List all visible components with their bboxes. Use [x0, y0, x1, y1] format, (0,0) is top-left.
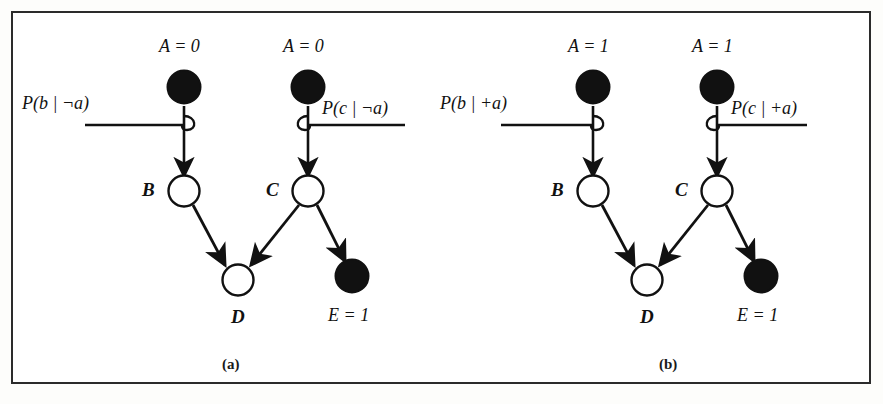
message-pointer-left-b: [501, 116, 603, 130]
node-d[interactable]: [223, 265, 254, 296]
node-d-label: D: [640, 307, 654, 326]
edge-c-to-e: [726, 205, 754, 261]
message-pointer-right-a: [298, 116, 405, 130]
message-pointer-right-b: [707, 116, 807, 130]
panel-a: A = 0 A = 0 P(b | ¬a) P(c | ¬a) B C D E …: [25, 13, 455, 386]
edge-c-to-e: [317, 205, 345, 261]
figure-border: A = 0 A = 0 P(b | ¬a) P(c | ¬a) B C D E …: [11, 11, 871, 384]
message-label-left-a: P(b | ¬a): [22, 94, 89, 112]
node-a-left[interactable]: [577, 71, 610, 104]
node-a-left-label: A = 1: [568, 37, 609, 55]
message-label-left-b: P(b | +a): [440, 94, 507, 112]
node-c-label: C: [266, 180, 279, 199]
node-a-right[interactable]: [701, 71, 734, 104]
node-d-label: D: [231, 307, 245, 326]
edge-b-to-d: [193, 205, 225, 265]
edge-c-to-d: [660, 205, 708, 265]
node-b[interactable]: [578, 176, 609, 207]
node-c-label: C: [675, 180, 688, 199]
diagram-b-graph: [435, 13, 865, 386]
node-e[interactable]: [336, 260, 369, 293]
message-pointer-left-a: [85, 116, 194, 130]
message-label-right-a: P(c | ¬a): [322, 99, 388, 117]
node-e[interactable]: [745, 260, 778, 293]
edge-c-to-d: [251, 205, 299, 265]
node-a-right-label: A = 1: [692, 37, 733, 55]
node-a-right-label: A = 0: [283, 37, 324, 55]
figure-root: A = 0 A = 0 P(b | ¬a) P(c | ¬a) B C D E …: [0, 0, 883, 404]
node-c[interactable]: [702, 176, 733, 207]
node-a-left[interactable]: [168, 71, 201, 104]
node-d[interactable]: [632, 265, 663, 296]
node-e-label: E = 1: [737, 306, 778, 324]
node-b[interactable]: [169, 176, 200, 207]
diagram-a-graph: [25, 13, 455, 386]
message-label-right-b: P(c | +a): [731, 99, 797, 117]
node-e-label: E = 1: [328, 306, 369, 324]
node-c[interactable]: [293, 176, 324, 207]
edge-b-to-d: [602, 205, 634, 265]
panel-b: A = 1 A = 1 P(b | +a) P(c | +a) B C D E …: [435, 13, 865, 386]
panel-a-caption: (a): [222, 357, 240, 372]
node-a-right[interactable]: [292, 71, 325, 104]
node-b-label: B: [551, 180, 564, 199]
node-b-label: B: [142, 180, 155, 199]
panel-b-caption: (b): [659, 357, 677, 372]
node-a-left-label: A = 0: [159, 37, 200, 55]
